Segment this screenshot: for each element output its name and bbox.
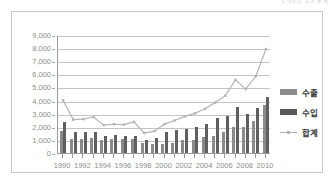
x-axis-tick-label: 2002 [175, 162, 192, 170]
y-axis: 9,0008,0007,0006,0005,0004,0003,0002,000… [23, 36, 55, 154]
chart-screenshot: 무역수지 추이 통계 9,0008,0007,0006,0005,0004,00… [0, 0, 336, 188]
x-axis-tick [93, 154, 94, 158]
x-axis-tick [62, 154, 63, 158]
legend-label-imports: 수입 [302, 106, 318, 118]
x-axis-tick-label: 2000 [155, 162, 172, 170]
x-axis-tick [113, 154, 114, 158]
x-axis-ticks [57, 154, 270, 159]
x-axis-tick-label: 1996 [115, 162, 132, 170]
y-axis-tick [52, 141, 55, 142]
x-axis-tick-label: 1998 [135, 162, 152, 170]
x-axis-tick [153, 154, 154, 158]
x-axis-tick [123, 154, 124, 158]
x-axis-tick [194, 154, 195, 158]
total-line-marker [265, 48, 267, 50]
x-axis-tick-label: 1990 [54, 162, 71, 170]
total-line-marker [214, 101, 216, 103]
y-axis-tick-label: 4,000 [32, 98, 51, 106]
y-axis-tick [52, 102, 55, 103]
y-axis-tick [52, 115, 55, 116]
total-line-marker [224, 94, 226, 96]
legend-label-exports: 수출 [302, 86, 318, 98]
x-axis-tick [72, 154, 73, 158]
legend-item-exports[interactable]: 수출 [280, 82, 336, 102]
chart-legend: 수출 수입 합계 [280, 82, 336, 142]
y-axis-tick [52, 36, 55, 37]
total-line-marker [143, 132, 145, 134]
x-axis-tick [224, 154, 225, 158]
x-axis-tick-label: 1992 [74, 162, 91, 170]
y-axis-tick [52, 49, 55, 50]
plot-area [57, 36, 270, 154]
y-axis-tick-label: 2,000 [32, 124, 51, 132]
x-axis-tick [82, 154, 83, 158]
total-line-marker [62, 99, 64, 101]
bar-swatch-dark-icon [280, 109, 297, 115]
total-line-marker [163, 123, 165, 125]
y-axis-tick-label: 0 [47, 150, 51, 158]
y-axis-tick-label: 3,000 [32, 111, 51, 119]
x-axis-tick [204, 154, 205, 158]
chart-frame: 9,0008,0007,0006,0005,0004,0003,0002,000… [11, 11, 323, 173]
bar-swatch-light-icon [280, 89, 297, 95]
total-line-marker [123, 123, 125, 125]
y-axis-tick-label: 1,000 [32, 137, 51, 145]
y-axis-tick-label: 6,000 [32, 72, 51, 80]
x-axis-tick-label: 2006 [216, 162, 233, 170]
y-axis-tick-label: 9,000 [32, 32, 51, 40]
x-axis-tick [235, 154, 236, 158]
x-axis-tick [255, 154, 256, 158]
x-axis-tick [265, 154, 266, 158]
total-line-marker [133, 121, 135, 123]
total-line-marker [102, 124, 104, 126]
y-axis-tick [52, 128, 55, 129]
x-axis-tick-label: 2004 [196, 162, 213, 170]
y-axis-tick [52, 88, 55, 89]
x-axis-tick [143, 154, 144, 158]
line-swatch-icon [280, 132, 297, 133]
line-series-layer [58, 36, 271, 154]
total-line-marker [234, 79, 236, 81]
total-line-marker [255, 75, 257, 77]
total-line-marker [72, 118, 74, 120]
total-line-marker [204, 108, 206, 110]
x-axis-tick [214, 154, 215, 158]
x-axis-tick [174, 154, 175, 158]
total-line-marker [184, 115, 186, 117]
legend-label-total: 합계 [302, 126, 318, 138]
x-axis-tick-label: 1994 [94, 162, 111, 170]
legend-item-total[interactable]: 합계 [280, 122, 336, 142]
legend-item-imports[interactable]: 수입 [280, 102, 336, 122]
y-axis-tick [52, 75, 55, 76]
total-line-path [63, 49, 266, 133]
x-axis-tick [133, 154, 134, 158]
x-axis-tick-label: 2008 [236, 162, 253, 170]
y-axis-tick-label: 8,000 [32, 45, 51, 53]
x-axis-tick-label: 2010 [257, 162, 274, 170]
total-line-marker [173, 119, 175, 121]
x-axis-tick [184, 154, 185, 158]
x-axis-labels: 1990199219941996199820002002200420062008… [32, 162, 292, 176]
y-axis-tick-label: 7,000 [32, 58, 51, 66]
x-axis-tick [103, 154, 104, 158]
total-line-marker [244, 88, 246, 90]
y-axis-tick [52, 62, 55, 63]
y-axis-tick-label: 5,000 [32, 85, 51, 93]
x-axis-tick [164, 154, 165, 158]
total-line-marker [113, 123, 115, 125]
total-line-marker [153, 130, 155, 132]
total-line-marker [194, 112, 196, 114]
total-line-marker [92, 116, 94, 118]
total-line-marker [82, 118, 84, 120]
x-axis-tick [245, 154, 246, 158]
top-note-text: 무역수지 추이 통계 [281, 0, 328, 4]
y-axis-tick [52, 154, 55, 155]
